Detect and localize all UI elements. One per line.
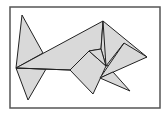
tangram-fish-diagram (0, 0, 166, 115)
tail-bottom-triangle (16, 68, 46, 100)
tangram-pieces (16, 15, 147, 100)
